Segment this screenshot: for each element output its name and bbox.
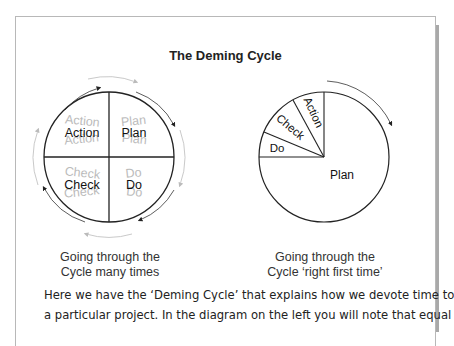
body-paragraph: Here we have the ‘Deming Cycle’ that exp…	[44, 285, 434, 325]
slice-plan-label: Plan	[330, 168, 354, 182]
left-caption: Going through the Cycle many times	[40, 250, 180, 280]
quadrant-plan-label: Plan	[121, 126, 146, 140]
right-caption: Going through the Cycle ‘right first tim…	[255, 250, 395, 280]
quadrant-check-label: Check	[64, 178, 100, 192]
quadrant-action-label: Action	[65, 126, 100, 140]
left-cycle-diagram: Action Action Plan Plan Check Check Do D…	[33, 77, 185, 238]
right-pie-diagram: Do Check Action Plan	[259, 81, 391, 222]
slice-do-label: Do	[270, 142, 285, 154]
quadrant-do-label: Do	[126, 178, 142, 192]
